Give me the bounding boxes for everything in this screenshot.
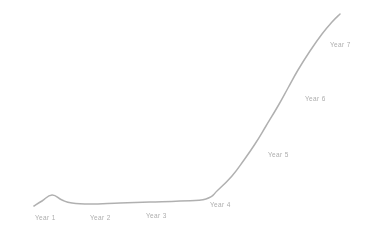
data-label-year-6: Year 6 bbox=[305, 96, 326, 103]
growth-chart: Year 1 Year 2 Year 3 Year 4 Year 5 Year … bbox=[0, 0, 380, 240]
growth-curve-line bbox=[34, 14, 340, 206]
data-label-year-7: Year 7 bbox=[330, 42, 351, 49]
data-label-year-2: Year 2 bbox=[90, 215, 111, 222]
data-label-year-5: Year 5 bbox=[268, 152, 289, 159]
data-label-year-4: Year 4 bbox=[210, 202, 231, 209]
growth-curve-svg bbox=[0, 0, 380, 240]
data-label-year-1: Year 1 bbox=[35, 215, 56, 222]
data-label-year-3: Year 3 bbox=[146, 213, 167, 220]
